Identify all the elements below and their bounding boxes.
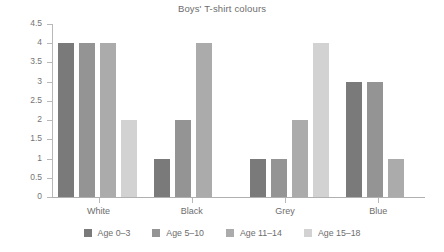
bar-group-grey [244,24,340,197]
x-axis-label-blue: Blue [332,206,425,216]
y-axis-tick-label: 4 [37,37,42,47]
legend-swatch-icon [152,229,160,237]
bar-slot [175,24,191,197]
bar[interactable] [250,159,266,197]
bar-slot [292,24,308,197]
bar[interactable] [388,159,404,197]
y-axis-tick-label: 2.5 [30,95,42,105]
y-axis-tick-label: 1.5 [30,133,42,143]
bar[interactable] [292,120,308,197]
bar[interactable] [121,120,137,197]
bar-slot [100,24,116,197]
legend-item[interactable]: Age 11–14 [226,228,282,238]
bar-slot [409,24,425,197]
x-axis-tick-mark [99,198,100,203]
legend-swatch-icon [304,229,312,237]
bar-slot [313,24,329,197]
bar-group-black [148,24,244,197]
bar-slot [346,24,362,197]
x-axis-tick-mark [285,198,286,203]
bar[interactable] [154,159,170,197]
y-axis-tick-label: 3.5 [30,56,42,66]
bar-slot [367,24,383,197]
x-axis-label-white: White [52,206,145,216]
bar[interactable] [175,120,191,197]
y-axis-tick-label: 0.5 [30,172,42,182]
bar-group-white [52,24,148,197]
legend-label: Age 5–10 [166,228,204,238]
x-axis-tick [145,198,238,204]
legend-item[interactable]: Age 0–3 [84,228,131,238]
x-axis-tick-mark [192,198,193,203]
y-axis-tick-label: 2 [37,114,42,124]
x-axis-label-black: Black [145,206,238,216]
bar[interactable] [100,43,116,197]
bar-slot [154,24,170,197]
bar-slot [121,24,137,197]
bar-slot [217,24,233,197]
bar-slot [79,24,95,197]
legend-label: Age 0–3 [98,228,131,238]
bar[interactable] [271,159,287,197]
y-axis-tick-label: 4.5 [30,18,42,28]
bar-slot [58,24,74,197]
bar-slot [388,24,404,197]
legend-swatch-icon [226,229,234,237]
y-axis-tick-label: 3 [37,76,42,86]
legend-label: Age 15–18 [318,228,361,238]
bar[interactable] [58,43,74,197]
x-axis-tick [239,198,332,204]
bar[interactable] [367,82,383,197]
legend-item[interactable]: Age 5–10 [152,228,204,238]
x-axis-ticks [52,198,425,204]
bar-groups [52,24,425,197]
x-axis-tick [52,198,145,204]
bar-group-blue [340,24,436,197]
legend-swatch-icon [84,229,92,237]
x-axis-tick [332,198,425,204]
x-axis-tick-mark [378,198,379,203]
bar[interactable] [313,43,329,197]
x-axis-label-grey: Grey [239,206,332,216]
bar[interactable] [79,43,95,197]
x-axis-labels: WhiteBlackGreyBlue [52,206,425,216]
y-axis-tick-label: 0 [37,191,42,201]
bar-slot [250,24,266,197]
chart-legend: Age 0–3Age 5–10Age 11–14Age 15–18 [0,228,444,238]
legend-item[interactable]: Age 15–18 [304,228,361,238]
legend-label: Age 11–14 [240,228,282,238]
bar-slot [196,24,212,197]
bar-slot [271,24,287,197]
y-axis-tick-label: 1 [37,153,42,163]
bar[interactable] [346,82,362,197]
chart-container: Boys' T-shirt colours 4.543.532.521.510.… [0,0,444,252]
chart-title: Boys' T-shirt colours [0,3,444,14]
bar[interactable] [196,43,212,197]
